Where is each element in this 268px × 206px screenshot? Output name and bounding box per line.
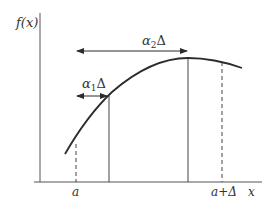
tick-label-a: a	[72, 185, 79, 199]
tick-label-a-plus-delta: a+Δ	[211, 185, 237, 199]
y-axis-label: f(x)	[15, 15, 38, 30]
alpha1-delta-label: α1Δ	[82, 76, 106, 93]
function-curve	[65, 58, 242, 154]
concavity-diagram: f(x) α2Δ α1Δ a a+Δ x	[0, 0, 268, 206]
x-axis-label: x	[248, 185, 255, 199]
alpha2-delta-label: α2Δ	[142, 33, 166, 50]
